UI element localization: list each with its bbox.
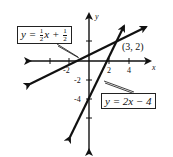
graph: x y -2 2 4 -2 -4 (3, 2) bbox=[0, 0, 173, 157]
y-tick-label-neg4: -4 bbox=[74, 95, 81, 104]
equation-label-2: y = 2x − 4 bbox=[101, 93, 156, 109]
equation-label-1: y = 12x + 12 bbox=[17, 26, 72, 44]
leader-line-1 bbox=[57, 44, 79, 58]
x-axis-label: x bbox=[151, 63, 156, 72]
eq1-mid: x + bbox=[44, 28, 59, 40]
y-axis-label: y bbox=[94, 12, 99, 21]
eq1-prefix: y = bbox=[21, 28, 36, 40]
x-tick-label-neg2: -2 bbox=[63, 66, 70, 75]
eq1-frac2: 12 bbox=[63, 28, 67, 43]
x-tick-label-2: 2 bbox=[107, 66, 111, 75]
eq1-frac1: 12 bbox=[40, 28, 44, 43]
y-tick-label-neg2: -2 bbox=[74, 76, 81, 85]
intersection-label: (3, 2) bbox=[122, 41, 144, 53]
x-tick-label-4: 4 bbox=[127, 66, 131, 75]
